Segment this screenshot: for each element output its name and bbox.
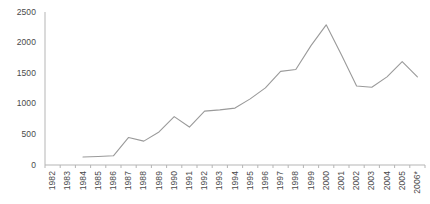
y-tick-label: 0	[2, 161, 36, 170]
x-tick-label: 1998	[291, 171, 300, 190]
x-tick-label: 1992	[200, 171, 209, 190]
x-tick-label: 1984	[79, 171, 88, 190]
x-tick-label: 1987	[124, 171, 133, 190]
x-tick-label: 2003	[367, 171, 376, 190]
y-tick-label: 500	[2, 130, 36, 139]
x-tick-label: 1993	[215, 171, 224, 190]
x-tick-label: 1996	[261, 171, 270, 190]
x-tick-label: 2006*	[413, 171, 422, 194]
x-tick-label: 2004	[383, 171, 392, 190]
x-tick-label: 1983	[63, 171, 72, 190]
x-tick-label: 2001	[337, 171, 346, 190]
axis-lines	[45, 12, 425, 165]
x-tick-label: 1990	[170, 171, 179, 190]
y-tick-label: 1500	[2, 69, 36, 78]
y-tick-label: 2000	[2, 38, 36, 47]
x-tick-label: 1991	[185, 171, 194, 190]
x-tick-label: 1985	[94, 171, 103, 190]
x-tick-label: 2005	[398, 171, 407, 190]
x-tick-label: 1997	[276, 171, 285, 190]
x-tick-label: 1988	[139, 171, 148, 190]
y-tick-label: 1000	[2, 99, 36, 108]
x-tick-label: 1982	[48, 171, 57, 190]
x-tick-label: 1995	[246, 171, 255, 190]
x-tick-label: 1994	[231, 171, 240, 190]
x-tick-label: 2000	[322, 171, 331, 190]
x-tick-label: 2002	[352, 171, 361, 190]
line-chart: 05001000150020002500 1982198319841985198…	[0, 0, 430, 204]
x-tick-label: 1999	[307, 171, 316, 190]
x-tick-label: 1989	[155, 171, 164, 190]
data-series-line	[83, 25, 417, 157]
x-tick-label: 1986	[109, 171, 118, 190]
y-tick-label: 2500	[2, 8, 36, 17]
